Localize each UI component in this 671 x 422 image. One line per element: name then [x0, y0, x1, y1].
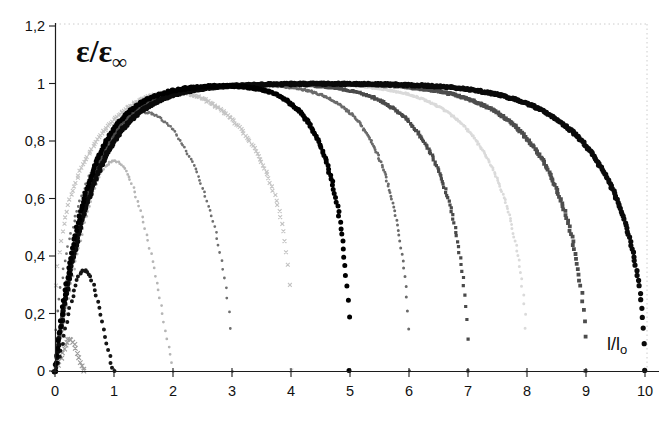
series-markers: [53, 83, 352, 374]
x-tick-label: 2: [169, 383, 177, 399]
x-tick-label: 6: [405, 383, 413, 399]
y-tick-label: 0,4: [25, 248, 45, 264]
data-series-curve-end-9: [53, 81, 588, 373]
x-tick-label: 8: [523, 383, 531, 399]
x-tick-label: 0: [51, 383, 59, 399]
tick-labels: 00,20,40,60,811,2012345678910: [25, 18, 653, 399]
x-tick-label: 1: [110, 383, 118, 399]
y-tick-label: 1,2: [25, 18, 45, 34]
x-tick-label: 5: [346, 383, 354, 399]
y-tick-label: 0: [37, 363, 45, 379]
x-tick-label: 9: [582, 383, 590, 399]
axes: [49, 23, 659, 377]
x-tick-label: 7: [464, 383, 472, 399]
x-axis-label-main: l/l: [607, 334, 620, 354]
y-tick-label: 0,6: [25, 191, 45, 207]
x-axis-label: l/lo: [607, 334, 627, 357]
x-tick-label: 3: [228, 383, 236, 399]
y-tick-label: 0,8: [25, 133, 45, 149]
figure: 00,20,40,60,811,2012345678910 ε/ε∞ l/lo: [0, 0, 671, 422]
x-axis-label-subscript: o: [620, 342, 627, 357]
y-tick-label: 1: [37, 76, 45, 92]
x-tick-label: 4: [287, 383, 295, 399]
series-markers: [52, 90, 293, 374]
data-series-layer: [52, 80, 648, 374]
y-tick-label: 0,2: [25, 306, 45, 322]
chart-title: ε/ε∞: [76, 33, 127, 74]
chart-title-subscript: ∞: [112, 50, 127, 74]
x-tick-label: 10: [637, 383, 653, 399]
series-markers: [53, 81, 588, 373]
data-series-curve-end-4: [52, 90, 293, 374]
data-series-curve-end-10: [52, 80, 648, 374]
series-markers: [52, 80, 648, 374]
chart-svg: 00,20,40,60,811,2012345678910 ε/ε∞ l/lo: [0, 0, 671, 422]
chart-title-main: ε/ε: [76, 33, 113, 69]
data-series-curve-end-5: [53, 83, 352, 374]
